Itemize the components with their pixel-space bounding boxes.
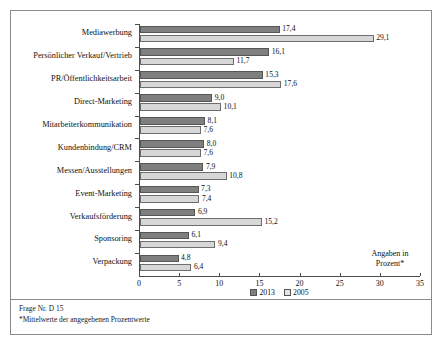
- bar-2005[interactable]: [140, 35, 374, 43]
- chart-category-row: PR/Öffentlichkeitsarbeit15,317,6: [0, 70, 444, 93]
- chart-category-row: Mediawerbung17,429,1: [0, 24, 444, 47]
- x-axis-tick: [219, 273, 220, 276]
- bar-group: 9,010,1: [140, 94, 440, 114]
- units-annotation: Angaben in Prozent*: [352, 249, 428, 270]
- bar-2013[interactable]: [140, 71, 263, 79]
- category-label: PR/Öffentlichkeitsarbeit: [2, 74, 132, 84]
- x-axis-tick-label: 15: [255, 279, 263, 288]
- bar-2013[interactable]: [140, 186, 199, 194]
- bar-2005[interactable]: [140, 58, 234, 66]
- bar-group: 8,07,6: [140, 140, 440, 160]
- chart-category-row: Verkaufsförderung6,915,2: [0, 207, 444, 230]
- bar-2013[interactable]: [140, 255, 179, 263]
- units-annotation-line-2: Prozent*: [352, 259, 428, 269]
- bar-2005[interactable]: [140, 103, 221, 111]
- category-label: Messen/Ausstellungen: [2, 166, 132, 176]
- bar-value-label: 7,9: [206, 163, 216, 171]
- bar-2005[interactable]: [140, 241, 215, 249]
- bar-value-label: 15,3: [265, 71, 278, 79]
- bar-value-label: 11,7: [236, 57, 249, 65]
- category-label: Mitarbeiterkommunikation: [2, 120, 132, 130]
- bar-value-label: 6,1: [191, 231, 201, 239]
- x-axis-tick-label: 5: [177, 279, 181, 288]
- bar-2013[interactable]: [140, 117, 205, 125]
- bar-value-label: 7,4: [202, 195, 212, 203]
- y-axis-tick: [135, 230, 139, 231]
- bar-group: 8,17,6: [140, 117, 440, 137]
- bar-group: 16,111,7: [140, 48, 440, 68]
- bar-2005[interactable]: [140, 81, 281, 89]
- category-label: Verkaufsförderung: [2, 212, 132, 222]
- bar-group: 6,915,2: [140, 209, 440, 229]
- bar-value-label: 9,4: [218, 240, 228, 248]
- chart-category-row: Messen/Ausstellungen7,910,8: [0, 161, 444, 184]
- chart-category-row: Direct-Marketing9,010,1: [0, 93, 444, 116]
- y-axis-tick: [135, 93, 139, 94]
- y-axis-tick: [135, 184, 139, 185]
- y-axis-tick: [135, 70, 139, 71]
- x-axis-tick: [179, 273, 180, 276]
- chart-category-row: Kundenbindung/CRM8,07,6: [0, 138, 444, 161]
- legend-item-2013[interactable]: 2013: [250, 288, 275, 297]
- units-annotation-line-1: Angaben in: [352, 249, 428, 259]
- y-axis-tick: [135, 161, 139, 162]
- bar-value-label: 16,1: [272, 48, 285, 56]
- x-axis-tick: [420, 273, 421, 276]
- bar-value-label: 15,2: [265, 218, 278, 226]
- bar-value-label: 17,4: [282, 25, 295, 33]
- bar-value-label: 17,6: [284, 80, 297, 88]
- y-axis-tick: [135, 116, 139, 117]
- chart-category-row: Mitarbeiterkommunikation8,17,6: [0, 116, 444, 139]
- legend-swatch-2005-icon: [284, 289, 291, 296]
- bar-value-label: 4,8: [181, 254, 191, 262]
- category-label: Mediawerbung: [2, 28, 132, 38]
- bar-2013[interactable]: [140, 232, 189, 240]
- y-axis-tick: [135, 207, 139, 208]
- x-axis-tick: [340, 273, 341, 276]
- bar-2013[interactable]: [140, 140, 204, 148]
- bar-2005[interactable]: [140, 195, 199, 203]
- bar-value-label: 7,3: [201, 185, 211, 193]
- bar-2013[interactable]: [140, 163, 203, 171]
- bar-2005[interactable]: [140, 149, 201, 157]
- legend-swatch-2013-icon: [250, 289, 257, 296]
- bar-value-label: 7,6: [204, 126, 214, 134]
- bar-2005[interactable]: [140, 218, 262, 226]
- bar-value-label: 6,4: [194, 263, 204, 271]
- bar-value-label: 8,1: [208, 117, 218, 125]
- bar-2005[interactable]: [140, 264, 191, 272]
- x-axis-tick-label: 0: [137, 279, 141, 288]
- category-label: Kundenbindung/CRM: [2, 143, 132, 153]
- x-axis-tick-label: 10: [215, 279, 223, 288]
- bar-value-label: 8,0: [207, 140, 217, 148]
- bar-group: 7,37,4: [140, 186, 440, 206]
- bar-2013[interactable]: [140, 94, 212, 102]
- chart-category-row: Event-Marketing7,37,4: [0, 184, 444, 207]
- chart-legend: 2013 2005: [139, 288, 420, 297]
- x-axis-tick: [259, 273, 260, 276]
- legend-item-2005[interactable]: 2005: [284, 288, 309, 297]
- legend-label-2013: 2013: [259, 288, 275, 297]
- bar-2005[interactable]: [140, 126, 201, 134]
- bar-2005[interactable]: [140, 172, 227, 180]
- footnote-method: *Mittelwerte der angegebenen Prozentwert…: [19, 315, 339, 326]
- bar-group: 7,910,8: [140, 163, 440, 183]
- bar-value-label: 7,6: [204, 149, 214, 157]
- bar-2013[interactable]: [140, 48, 269, 56]
- bar-value-label: 10,1: [224, 103, 237, 111]
- y-axis-tick: [135, 24, 139, 25]
- bar-group: 15,317,6: [140, 71, 440, 91]
- bar-value-label: 10,8: [229, 172, 242, 180]
- y-axis-tick: [135, 253, 139, 254]
- y-axis-tick: [135, 47, 139, 48]
- footnote-question: Frage Nr. D 15: [19, 304, 339, 315]
- bar-group: 17,429,1: [140, 26, 440, 46]
- category-label: Direct-Marketing: [2, 97, 132, 107]
- chart-page: Mediawerbung17,429,1Persönlicher Verkauf…: [0, 0, 444, 345]
- category-label: Persönlicher Verkauf/Vertrieb: [2, 51, 132, 61]
- category-label: Event-Marketing: [2, 189, 132, 199]
- bar-2013[interactable]: [140, 26, 280, 34]
- bar-2013[interactable]: [140, 209, 195, 217]
- bar-value-label: 29,1: [376, 34, 389, 42]
- category-rows: Mediawerbung17,429,1Persönlicher Verkauf…: [0, 24, 444, 276]
